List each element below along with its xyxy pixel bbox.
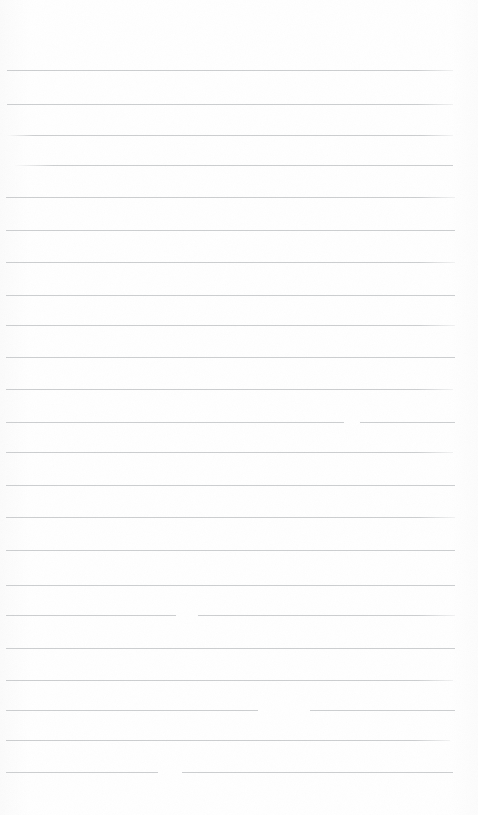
ruled-line <box>6 197 455 198</box>
ruled-line-scan-gap <box>176 614 198 617</box>
paper-surface <box>0 0 478 815</box>
scan-noise-texture <box>0 0 478 815</box>
ruled-line <box>6 422 455 423</box>
ruled-line <box>7 70 453 71</box>
ruled-line <box>6 615 455 616</box>
ruled-line <box>6 772 453 773</box>
ruled-line-scan-gap <box>344 421 360 424</box>
ruled-line <box>6 585 455 586</box>
ruled-line-scan-gap <box>258 709 310 712</box>
ruled-line <box>6 389 453 390</box>
ruled-line-scan-gap <box>158 771 182 774</box>
ruled-line <box>7 104 453 105</box>
scanned-page <box>0 0 478 815</box>
ruled-line <box>6 230 455 231</box>
ruled-line <box>6 485 455 486</box>
ruled-line <box>6 262 455 263</box>
ruled-line <box>6 325 455 326</box>
ruled-line <box>6 452 453 453</box>
ruled-line <box>6 680 453 681</box>
ruled-line <box>7 135 453 136</box>
ruled-line <box>6 295 455 296</box>
ruled-line <box>6 550 455 551</box>
ruled-line <box>6 517 455 518</box>
ruled-line <box>6 710 455 711</box>
ruled-line <box>14 165 453 166</box>
ruled-line <box>6 740 450 741</box>
ruled-line <box>6 357 455 358</box>
ruled-line <box>6 648 455 649</box>
